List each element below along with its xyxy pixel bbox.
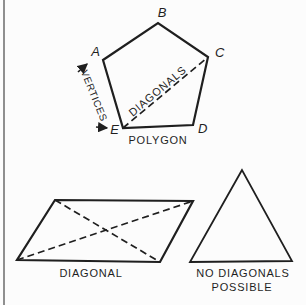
figure-canvas: A B C D E DIAGONALS VERTICES POLYGON DIA… (0, 0, 306, 305)
vertex-label-c: C (215, 45, 225, 60)
vertex-label-a: A (90, 44, 100, 59)
pentagon-figure: A B C D E DIAGONALS VERTICES POLYGON (78, 5, 225, 146)
vertices-label: VERTICES (79, 68, 110, 123)
triangle-outline (190, 170, 292, 262)
no-diagonals-caption-line1: NO DIAGONALS (196, 267, 289, 279)
vertex-label-e: E (110, 122, 119, 137)
triangle-figure: NO DIAGONALS POSSIBLE (190, 170, 292, 293)
no-diagonals-caption-line2: POSSIBLE (212, 281, 273, 293)
geometry-diagram: A B C D E DIAGONALS VERTICES POLYGON DIA… (0, 0, 306, 305)
vertices-arrow-to-e-icon (96, 127, 107, 128)
polygon-caption: POLYGON (128, 134, 187, 146)
vertex-label-d: D (198, 121, 207, 136)
parallelogram-diagonal-1 (55, 200, 160, 262)
diagonal-caption: DIAGONAL (59, 267, 122, 279)
pentagon-outline (103, 23, 208, 128)
parallelogram-figure: DIAGONAL (17, 200, 193, 279)
diagonals-label: DIAGONALS (126, 63, 188, 118)
vertex-label-b: B (158, 5, 167, 20)
